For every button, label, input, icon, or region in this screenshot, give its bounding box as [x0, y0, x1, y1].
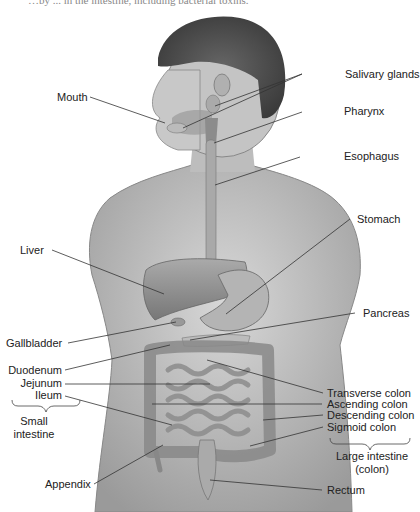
- label-descending-colon: Descending colon: [327, 409, 414, 421]
- label-mouth: Mouth: [57, 91, 88, 103]
- label-small-intestine-1: Small: [6, 415, 62, 427]
- label-sigmoid-colon: Sigmoid colon: [327, 421, 396, 433]
- label-pharynx: Pharynx: [344, 105, 384, 117]
- label-appendix: Appendix: [45, 478, 91, 490]
- label-pancreas: Pancreas: [363, 307, 409, 319]
- label-small-intestine-2: intestine: [6, 428, 62, 440]
- label-ileum: Ileum: [0, 389, 62, 401]
- label-stomach: Stomach: [357, 213, 400, 225]
- label-jejunum: Jejunum: [0, 377, 62, 389]
- label-large-intestine-2: (colon): [326, 463, 418, 475]
- small-intestine-brace: [12, 400, 80, 412]
- label-liver: Liver: [20, 244, 44, 256]
- label-large-intestine-1: Large intestine: [326, 450, 418, 462]
- label-rectum: Rectum: [327, 484, 365, 496]
- label-esophagus: Esophagus: [344, 150, 399, 162]
- label-gallbladder: Gallbladder: [6, 337, 62, 349]
- label-salivary-glands: Salivary glands: [345, 68, 420, 80]
- label-duodenum: Duodenum: [0, 364, 62, 376]
